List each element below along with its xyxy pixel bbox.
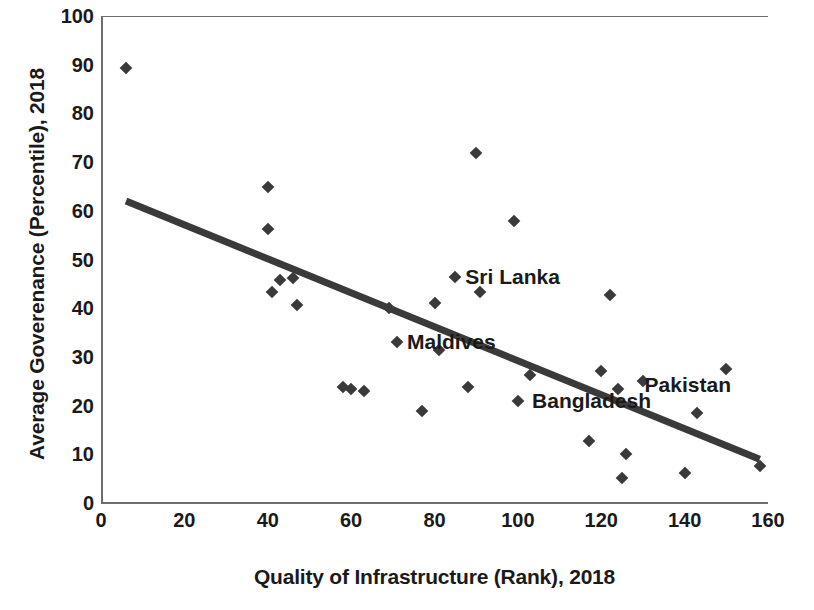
y-tick-label: 40: [38, 298, 94, 318]
trendline: [101, 16, 768, 503]
y-tick-label: 100: [38, 6, 94, 26]
x-tick-label: 40: [238, 510, 298, 530]
point-label: Pakistan: [645, 373, 731, 397]
y-tick-label: 30: [38, 347, 94, 367]
y-tick-label: 90: [38, 55, 94, 75]
point-label: Maldives: [407, 330, 496, 354]
point-label: Bangladesh: [532, 389, 651, 413]
x-tick-label: 160: [738, 510, 798, 530]
x-axis-title: Quality of Infrastructure (Rank), 2018: [101, 565, 768, 589]
x-tick-label: 140: [655, 510, 715, 530]
y-tick-label: 20: [38, 396, 94, 416]
x-tick-label: 100: [488, 510, 548, 530]
y-tick-label: 10: [38, 444, 94, 464]
y-tick-label: 60: [38, 201, 94, 221]
y-tick-label: 80: [38, 103, 94, 123]
x-tick-label: 80: [405, 510, 465, 530]
y-tick-label: 70: [38, 152, 94, 172]
plot-area: Sri LankaMaldivesBangladeshPakistan: [101, 16, 768, 503]
point-label: Sri Lanka: [465, 265, 560, 289]
y-axis-tick-labels: 1009080706050403020100: [36, 0, 94, 520]
x-tick-label: 120: [571, 510, 631, 530]
y-tick-label: 50: [38, 250, 94, 270]
x-tick-label: 20: [154, 510, 214, 530]
x-tick-label: 0: [71, 510, 131, 530]
scatter-chart-figure: Average Goverenance (Percentile), 2018 1…: [0, 0, 814, 610]
x-tick-label: 60: [321, 510, 381, 530]
